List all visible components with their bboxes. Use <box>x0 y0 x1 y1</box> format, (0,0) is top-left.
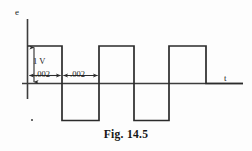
amplitude-label: 1 V <box>33 57 45 66</box>
period-label-second: .002 <box>70 70 85 79</box>
vertical-axis-label: e <box>15 8 19 17</box>
horizontal-axis-label: t <box>224 74 227 83</box>
figure-caption: Fig. 14.5 <box>0 128 252 140</box>
period-label-first: .002 <box>35 70 50 79</box>
stray-dot-artifact <box>31 119 33 121</box>
figure-container: e t 1 V .002 .002 Fig. 14.5 <box>0 0 252 151</box>
